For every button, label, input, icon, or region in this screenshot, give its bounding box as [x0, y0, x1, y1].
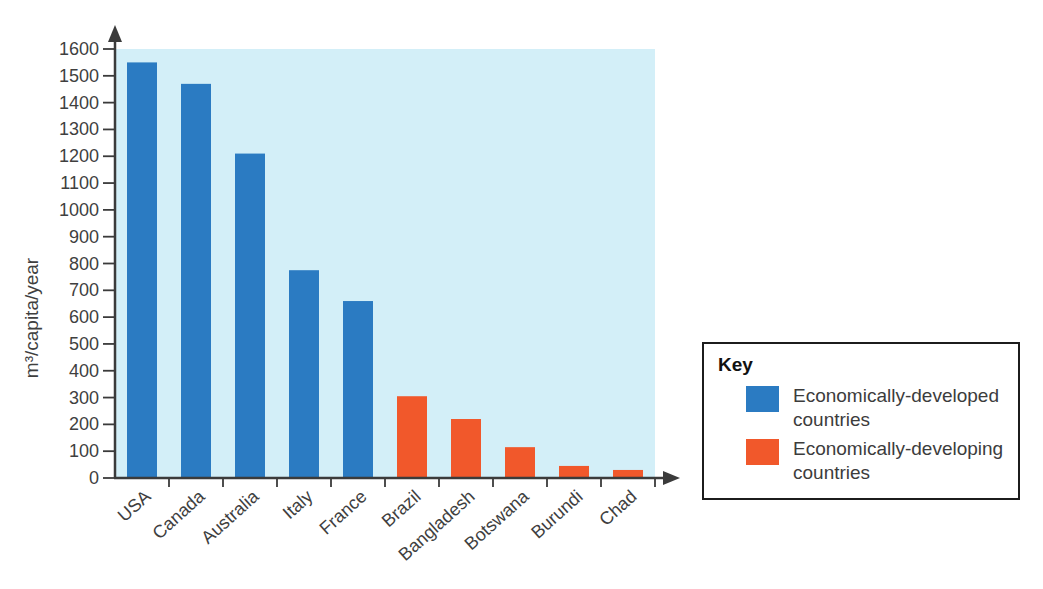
- legend-item-label-developed: Economically-developed countries: [793, 384, 1006, 433]
- bar-italy: [289, 270, 319, 478]
- y-tick-label: 400: [69, 361, 99, 381]
- x-label-france: France: [316, 486, 371, 538]
- x-axis-arrow: [663, 471, 680, 485]
- x-label-australia: Australia: [197, 485, 263, 547]
- x-label-usa: USA: [114, 486, 155, 526]
- bar-usa: [127, 62, 157, 478]
- y-axis-arrow: [108, 25, 122, 42]
- developing-swatch: [746, 439, 779, 465]
- bar-brazil: [397, 396, 427, 478]
- y-tick-label: 500: [69, 334, 99, 354]
- legend-item-label-developing: Economically-developing countries: [793, 437, 1006, 486]
- legend-box: Key Economically-developed countries Eco…: [702, 342, 1020, 500]
- bar-chart: 0100200300400500600700800900100011001200…: [0, 0, 1043, 589]
- x-label-burundi: Burundi: [527, 486, 586, 542]
- bar-canada: [181, 84, 211, 478]
- y-tick-label: 700: [69, 280, 99, 300]
- y-tick-label: 800: [69, 254, 99, 274]
- y-tick-label: 0: [89, 468, 99, 488]
- bar-burundi: [559, 466, 589, 478]
- bar-botswana: [505, 447, 535, 478]
- y-tick-label: 1600: [59, 39, 99, 59]
- y-axis-title: m³/capita/year: [21, 257, 42, 378]
- y-tick-label: 600: [69, 307, 99, 327]
- y-tick-label: 1300: [59, 119, 99, 139]
- developed-swatch: [746, 386, 779, 412]
- bar-bangladesh: [451, 419, 481, 478]
- y-tick-label: 200: [69, 414, 99, 434]
- figure: 0100200300400500600700800900100011001200…: [0, 0, 1043, 589]
- y-tick-label: 1100: [60, 173, 99, 193]
- x-label-italy: Italy: [279, 486, 317, 523]
- y-tick-label: 900: [69, 227, 99, 247]
- y-tick-label: 1500: [59, 66, 99, 86]
- y-tick-label: 300: [69, 388, 99, 408]
- y-tick-label: 1000: [59, 200, 99, 220]
- x-label-chad: Chad: [595, 486, 640, 530]
- y-tick-label: 1400: [59, 93, 99, 113]
- legend-item-developing: Economically-developing countries: [746, 437, 1006, 486]
- x-label-brazil: Brazil: [378, 486, 425, 531]
- legend-item-developed: Economically-developed countries: [746, 384, 1006, 433]
- bar-france: [343, 301, 373, 478]
- legend-title: Key: [718, 354, 1006, 376]
- bar-australia: [235, 154, 265, 478]
- y-tick-label: 100: [69, 441, 99, 461]
- y-tick-label: 1200: [59, 146, 99, 166]
